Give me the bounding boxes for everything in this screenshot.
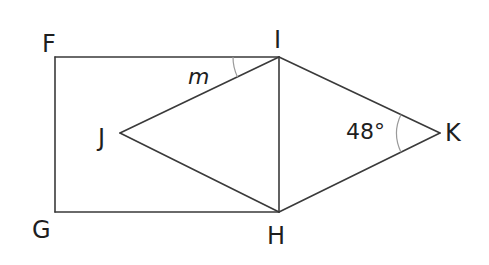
segment-HK — [279, 133, 440, 212]
angle-label-48: 48° — [346, 119, 385, 144]
angle-arc-m — [233, 57, 238, 77]
point-label-I: I — [274, 26, 281, 54]
angle-label-m: m — [188, 64, 209, 89]
point-label-J: J — [96, 124, 105, 152]
segment-JH — [120, 133, 279, 212]
point-label-F: F — [42, 30, 56, 58]
point-label-G: G — [32, 216, 51, 244]
point-label-K: K — [445, 119, 462, 147]
point-label-H: H — [267, 222, 285, 250]
geometry-diagram: F I J K G H m 48° — [0, 0, 489, 265]
angle-arc-48 — [397, 115, 401, 153]
